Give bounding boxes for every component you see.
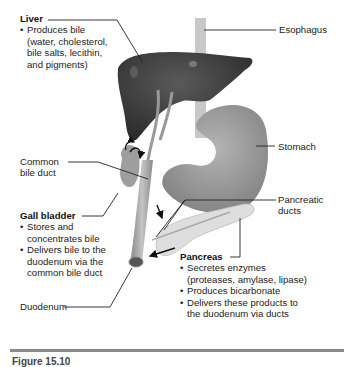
gall-bladder	[120, 141, 140, 187]
liver-bullet-1-cont-3: and pigments)	[20, 59, 108, 70]
pancreatic-ducts-line1: Pancreatic	[278, 194, 323, 205]
esophagus-label: Esophagus	[279, 24, 327, 35]
pancreas	[150, 204, 254, 256]
duodenum-label: Duodenum	[20, 301, 67, 312]
gall-bladder-title: Gall bladder	[20, 210, 75, 221]
gall-bladder-bullet-2: Delivers bile to the	[20, 244, 106, 255]
gall-bladder-bullet-1-cont: concentrates bile	[20, 233, 106, 244]
stomach-label: Stomach	[278, 141, 316, 152]
gall-bladder-label: Gall bladder Stores and concentrates bil…	[20, 210, 106, 278]
pancreas-label: Pancreas Secretes enzymes (proteases, am…	[180, 251, 307, 319]
liver-label: Liver Produces bile (water, cholesterol,…	[20, 13, 108, 70]
liver-bullet-1-cont-2: bile salts, lecithin,	[20, 47, 108, 58]
pancreas-title: Pancreas	[180, 251, 223, 262]
pancreas-bullet-3: Delivers these products to	[180, 297, 307, 308]
common-bile-duct-line1: Common	[20, 156, 59, 167]
liver-title: Liver	[20, 13, 43, 24]
common-bile-duct-line2: bile duct	[20, 167, 59, 178]
pancreas-bullet-1: Secretes enzymes	[180, 262, 307, 273]
figure-rule	[10, 349, 344, 352]
pancreatic-ducts-label: Pancreatic ducts	[278, 194, 323, 217]
gall-bladder-bullet-2-cont-2: common bile duct	[20, 267, 106, 278]
gall-bladder-bullet-1: Stores and	[20, 221, 106, 232]
stomach	[162, 105, 268, 213]
pancreas-bullet-2: Produces bicarbonate	[180, 285, 307, 296]
pancreatic-ducts-line2: ducts	[278, 205, 323, 216]
pancreas-bullet-1-cont: (proteases, amylase, lipase)	[180, 274, 307, 285]
common-bile-duct-label: Common bile duct	[20, 156, 59, 179]
pancreas-bullet-3-cont: the duodenum via ducts	[180, 308, 307, 319]
liver-bullet-1-cont-1: (water, cholesterol,	[20, 36, 108, 47]
gall-bladder-bullet-2-cont-1: duodenum via the	[20, 256, 106, 267]
liver-bullet-1: Produces bile	[20, 24, 108, 35]
figure-caption: Figure 15.10	[12, 356, 70, 367]
